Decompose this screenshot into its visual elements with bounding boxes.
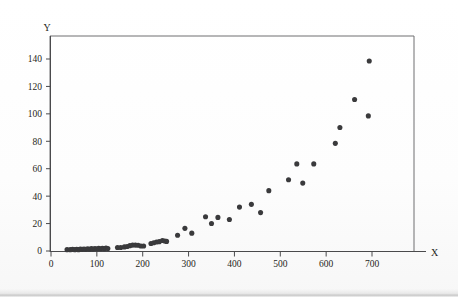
plot-frame-box	[50, 36, 414, 252]
plot-frame	[50, 36, 414, 252]
y-tick-label: 80	[33, 137, 43, 147]
data-point	[227, 217, 232, 222]
data-point	[249, 202, 254, 207]
data-point	[294, 161, 299, 166]
x-tick-label: 200	[136, 259, 151, 269]
axis-ticks	[46, 59, 372, 257]
data-point	[203, 214, 208, 219]
data-point	[175, 233, 180, 238]
y-tick-label: 40	[33, 192, 43, 202]
y-tick-label: 100	[28, 109, 43, 119]
data-point	[105, 246, 110, 251]
data-point	[366, 113, 371, 118]
y-tick-label: 20	[33, 219, 43, 229]
figure-page: 0100200300400500600700020406080100120140…	[0, 0, 458, 297]
y-tick-label: 60	[33, 164, 43, 174]
plot-svg: 0100200300400500600700020406080100120140…	[0, 0, 458, 297]
data-point	[209, 221, 214, 226]
data-point	[266, 188, 271, 193]
x-tick-label: 300	[181, 259, 196, 269]
x-tick-label: 0	[49, 259, 54, 269]
scatter-plot-figure: 0100200300400500600700020406080100120140…	[0, 0, 458, 297]
data-point	[311, 161, 316, 166]
x-tick-label: 100	[90, 259, 105, 269]
data-point	[164, 239, 169, 244]
data-point	[300, 181, 305, 186]
x-tick-label: 500	[273, 259, 288, 269]
data-point	[352, 97, 357, 102]
y-axis-title: Y	[43, 22, 50, 33]
data-point	[286, 177, 291, 182]
x-axis-title: X	[431, 247, 439, 258]
x-tick-label: 600	[319, 259, 334, 269]
data-point	[237, 205, 242, 210]
data-point	[141, 244, 146, 249]
axes	[50, 36, 426, 252]
x-tick-label: 400	[227, 259, 242, 269]
y-tick-label: 140	[28, 54, 43, 64]
data-point	[367, 59, 372, 64]
y-tick-label: 120	[28, 82, 43, 92]
data-point	[333, 141, 338, 146]
data-point	[258, 210, 263, 215]
data-points	[65, 59, 372, 253]
axis-tick-labels: 0100200300400500600700020406080100120140	[28, 54, 380, 269]
x-tick-label: 700	[365, 259, 380, 269]
data-point	[182, 226, 187, 231]
data-point	[215, 215, 220, 220]
data-point	[189, 231, 194, 236]
y-tick-label: 0	[37, 246, 42, 256]
data-point	[337, 125, 342, 130]
